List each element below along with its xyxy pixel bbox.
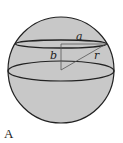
label-b: b [50, 49, 57, 62]
sphere-cross-section-diagram: a b r A [0, 0, 123, 143]
label-r: r [94, 49, 100, 62]
figure-caption: A [4, 126, 14, 141]
label-a: a [76, 30, 83, 43]
